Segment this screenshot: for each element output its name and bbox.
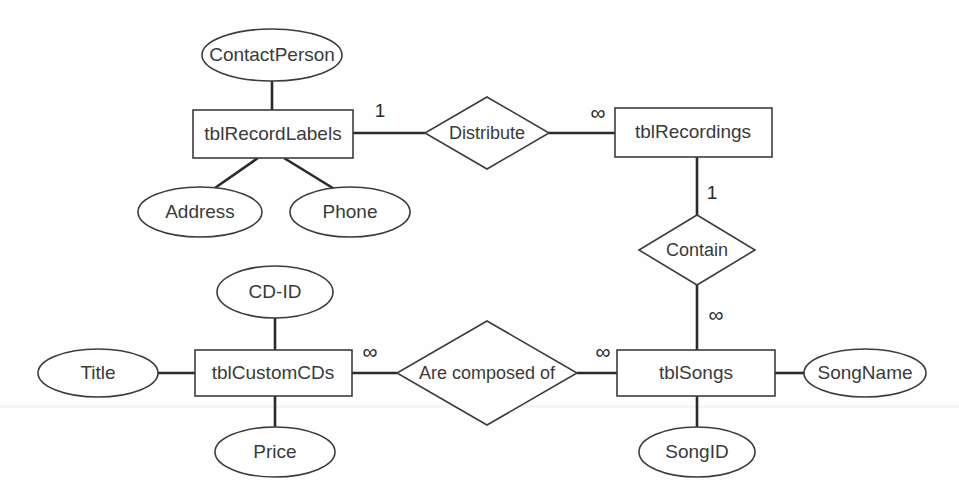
relationship-label: Contain <box>666 240 728 260</box>
attribute-address[interactable]: Address <box>138 187 262 237</box>
entity-label: tblRecordings <box>635 121 751 142</box>
entity-tblcustomcds[interactable]: tblCustomCDs <box>195 350 352 396</box>
cardinality-composed-right: ∞ <box>596 340 611 363</box>
relationship-are-composed-of[interactable]: Are composed of <box>397 321 577 425</box>
attribute-cd-id[interactable]: CD-ID <box>217 266 333 318</box>
attribute-label: CD-ID <box>249 281 302 302</box>
entity-tblsongs[interactable]: tblSongs <box>617 350 775 396</box>
attribute-label: Phone <box>323 201 378 222</box>
cardinality-distribute-left: 1 <box>375 100 386 121</box>
attribute-label: ContactPerson <box>209 44 335 65</box>
edge-tblrecordlabels-address <box>212 158 258 190</box>
entity-label: tblSongs <box>659 362 733 383</box>
attribute-label: SongName <box>817 362 912 383</box>
relationship-label: Are composed of <box>419 363 556 383</box>
attribute-phone[interactable]: Phone <box>290 187 410 237</box>
er-diagram-canvas: Distribute Contain Are composed of Conta… <box>0 0 959 502</box>
entity-tblrecordlabels[interactable]: tblRecordLabels <box>193 110 353 158</box>
attribute-label: Address <box>165 201 235 222</box>
relationship-contain[interactable]: Contain <box>639 215 755 285</box>
attribute-songid[interactable]: SongID <box>639 427 755 477</box>
attribute-price[interactable]: Price <box>215 427 335 477</box>
attribute-label: Title <box>80 362 115 383</box>
relationship-label: Distribute <box>449 123 525 143</box>
cardinality-distribute-right: ∞ <box>591 101 606 124</box>
attribute-contactperson[interactable]: ContactPerson <box>202 29 342 81</box>
cardinality-composed-left: ∞ <box>363 340 378 363</box>
attribute-label: Price <box>253 441 296 462</box>
er-diagram-svg: Distribute Contain Are composed of Conta… <box>0 0 959 502</box>
entity-tblrecordings[interactable]: tblRecordings <box>615 108 772 157</box>
attribute-title[interactable]: Title <box>38 349 158 397</box>
relationship-distribute[interactable]: Distribute <box>425 97 549 169</box>
cardinality-contain-bottom: ∞ <box>709 303 724 326</box>
attribute-label: SongID <box>665 441 728 462</box>
entity-label: tblRecordLabels <box>204 123 341 144</box>
cardinality-contain-top: 1 <box>707 182 718 203</box>
entity-label: tblCustomCDs <box>212 362 334 383</box>
attribute-songname[interactable]: SongName <box>804 349 926 397</box>
edge-tblrecordlabels-phone <box>284 158 336 190</box>
